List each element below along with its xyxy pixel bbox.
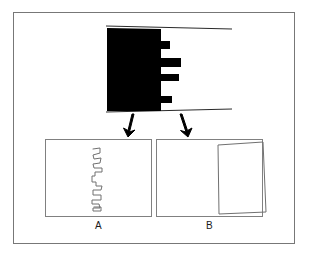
panel-row — [45, 139, 266, 217]
stimulus-comb-silhouette — [104, 24, 234, 114]
panel-a-drawing — [44, 138, 155, 220]
arrow-down-right-icon — [175, 113, 199, 139]
comb-silhouette-svg — [104, 24, 234, 116]
arrow-right-glyph — [180, 114, 192, 137]
zigzag-contour-path — [92, 148, 102, 211]
arrow-down-left-icon — [120, 113, 144, 139]
comb-body-shape — [107, 28, 181, 111]
panel-b-drawing — [155, 138, 270, 220]
arrow-row — [120, 113, 215, 139]
panel-a — [45, 139, 152, 217]
tilted-rectangle-path — [218, 142, 266, 214]
arrow-left-glyph — [124, 114, 136, 137]
panel-b — [156, 139, 263, 217]
panel-b-label: B — [156, 220, 263, 231]
figure-root: A B — [0, 0, 309, 257]
panel-a-label: A — [45, 220, 152, 231]
